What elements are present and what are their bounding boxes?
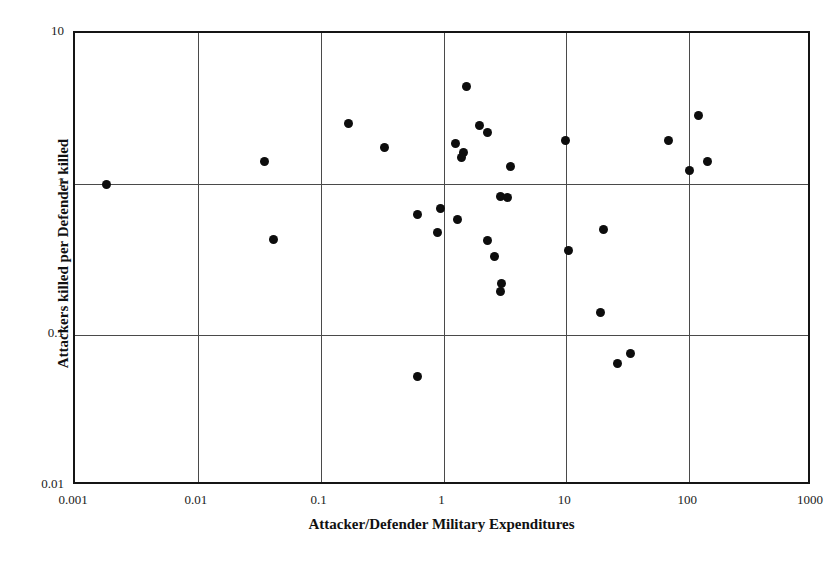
y-tick-label: 10 xyxy=(0,23,64,39)
data-point xyxy=(503,193,512,202)
data-point xyxy=(413,372,422,381)
data-point xyxy=(453,215,462,224)
data-point xyxy=(451,139,460,148)
x-tick-label: 10 xyxy=(524,492,604,508)
data-point xyxy=(596,308,605,317)
y-axis-title: Attackers killed per Defender killed xyxy=(55,64,72,444)
x-tick-label: 0.001 xyxy=(33,492,113,508)
x-tick-label: 0.01 xyxy=(156,492,236,508)
data-point xyxy=(462,82,471,91)
data-point xyxy=(483,236,492,245)
data-point xyxy=(664,136,673,145)
data-point xyxy=(102,180,111,189)
x-tick-label: 100 xyxy=(647,492,727,508)
data-point xyxy=(413,210,422,219)
data-point xyxy=(436,204,445,213)
data-points-layer xyxy=(75,33,808,482)
data-point xyxy=(613,359,622,368)
data-point xyxy=(380,143,389,152)
data-point xyxy=(496,287,505,296)
x-axis-title: Attacker/Defender Military Expenditures xyxy=(73,516,810,533)
x-tick-label: 1000 xyxy=(770,492,838,508)
data-point xyxy=(506,162,515,171)
data-point xyxy=(490,252,499,261)
data-point xyxy=(269,235,278,244)
x-tick-label: 0.1 xyxy=(279,492,359,508)
x-tick-label: 1 xyxy=(402,492,482,508)
data-point xyxy=(561,136,570,145)
data-point xyxy=(626,349,635,358)
data-point xyxy=(599,225,608,234)
plot-area xyxy=(73,31,810,484)
data-point xyxy=(694,111,703,120)
data-point xyxy=(475,121,484,130)
scatter-chart-figure: 0.0010.010.11101001000 0.010.1110 Attack… xyxy=(0,0,838,563)
data-point xyxy=(457,153,466,162)
data-point xyxy=(433,228,442,237)
data-point xyxy=(685,166,694,175)
data-point xyxy=(703,157,712,166)
data-point xyxy=(564,246,573,255)
data-point xyxy=(344,119,353,128)
y-tick-label: 0.01 xyxy=(0,476,64,492)
data-point xyxy=(483,128,492,137)
data-point xyxy=(260,157,269,166)
